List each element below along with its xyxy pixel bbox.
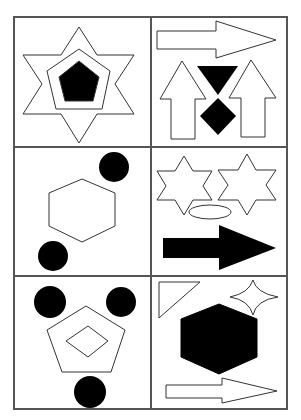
cell-r0-c0 — [23, 27, 134, 143]
circle-filled-shape-top — [99, 152, 129, 182]
right-arrow-outline-shape — [166, 378, 277, 403]
circle-filled-shape-bottom — [74, 376, 106, 408]
cell-r1-c1 — [157, 154, 276, 270]
hexagon-outline-shape — [49, 179, 115, 242]
circle-filled-shape-bottom — [38, 241, 68, 271]
up-arrow-outline-shape-right — [229, 60, 276, 137]
cell-r2-c1 — [159, 280, 278, 403]
cell-r0-c1 — [157, 21, 276, 139]
six-point-star-shape-right — [218, 154, 276, 215]
right-arrow-filled-shape — [163, 225, 276, 270]
up-arrow-outline-shape-left — [160, 61, 206, 139]
right-arrow-outline-shape — [157, 21, 276, 58]
diamond-filled-shape — [200, 98, 236, 135]
cell-r1-c0 — [38, 152, 129, 271]
circle-filled-shape-right — [106, 287, 136, 317]
cell-r2-c0 — [34, 286, 136, 408]
down-triangle-filled-shape — [197, 66, 238, 95]
right-triangle-outline-shape — [159, 282, 200, 318]
four-point-star-shape — [230, 280, 278, 315]
ellipse-outline-shape — [189, 205, 231, 219]
circle-filled-shape-left — [34, 286, 66, 318]
hexagon-filled-shape — [181, 304, 257, 374]
puzzle-grid — [0, 0, 301, 420]
